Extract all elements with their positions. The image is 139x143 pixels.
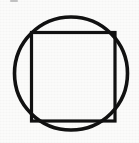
scan-smudge: [10, 0, 18, 2]
inscribed-square: [32, 33, 116, 122]
geometry-diagram: [0, 0, 139, 143]
figure-canvas: [0, 0, 139, 143]
